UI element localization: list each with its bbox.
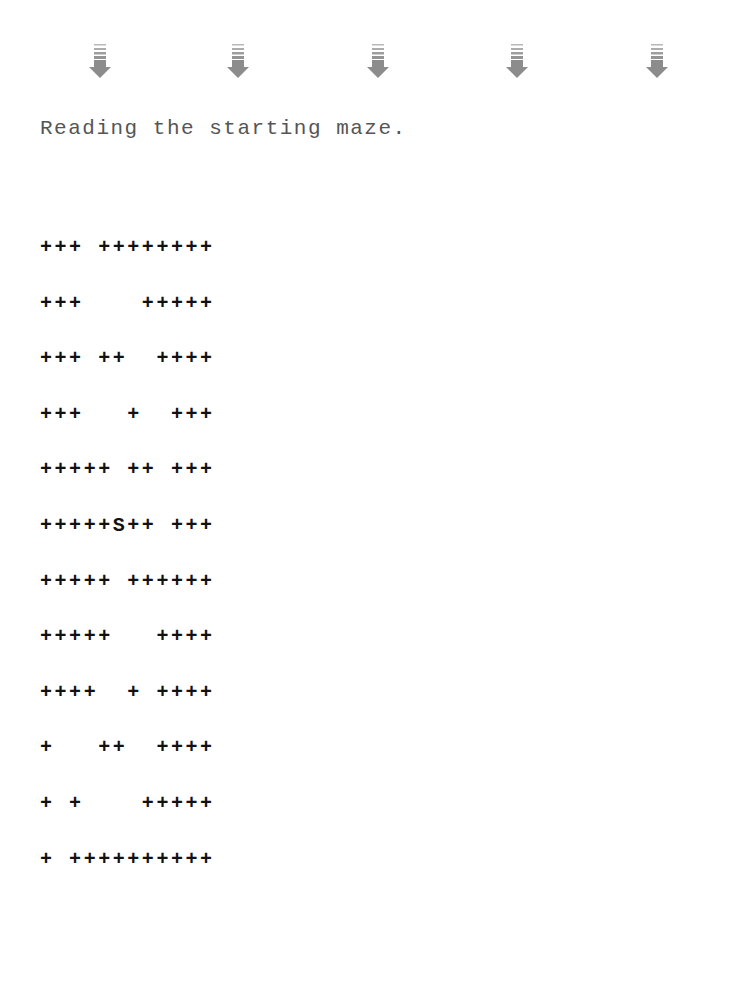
maze-row: ++++ + ++++ [40, 683, 407, 703]
maze-row: +++++ ++++ [40, 627, 407, 647]
drop-arrows-row [0, 44, 730, 80]
down-arrow-icon [89, 44, 111, 78]
maze-row: +++++S++ +++ [40, 516, 407, 536]
maze-row: +++ + +++ [40, 405, 407, 425]
maze-row: +++ ++ ++++ [40, 349, 407, 369]
maze-row: +++ ++++++++ [40, 238, 407, 258]
reading-maze-label: Reading the starting maze. [40, 118, 407, 140]
maze-row: + + +++++ [40, 794, 407, 814]
down-arrow-icon [506, 44, 528, 78]
maze-row: +++++ ++++++ [40, 572, 407, 592]
down-arrow-icon [367, 44, 389, 78]
maze-row: + ++ ++++ [40, 738, 407, 758]
starting-maze: +++ ++++++++ +++ +++++ +++ ++ ++++ +++ +… [40, 202, 407, 905]
down-arrow-icon [646, 44, 668, 78]
console-output: Reading the starting maze. +++ ++++++++ … [40, 82, 407, 983]
spacer [40, 959, 407, 975]
maze-row: +++++ ++ +++ [40, 460, 407, 480]
maze-row: +++ +++++ [40, 294, 407, 314]
down-arrow-icon [227, 44, 249, 78]
maze-row: + ++++++++++ [40, 850, 407, 870]
